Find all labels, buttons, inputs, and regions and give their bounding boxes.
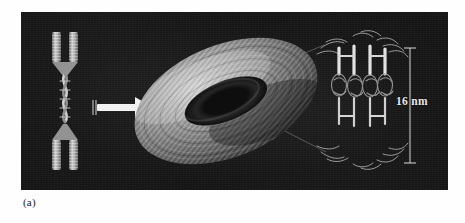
figure-panel-a: 16 nm (a) — [0, 0, 465, 223]
dark-image-panel — [21, 12, 448, 190]
dimension-line — [21, 12, 448, 190]
dimension-label: 16 nm — [396, 95, 428, 107]
panel-caption: (a) — [23, 196, 36, 208]
